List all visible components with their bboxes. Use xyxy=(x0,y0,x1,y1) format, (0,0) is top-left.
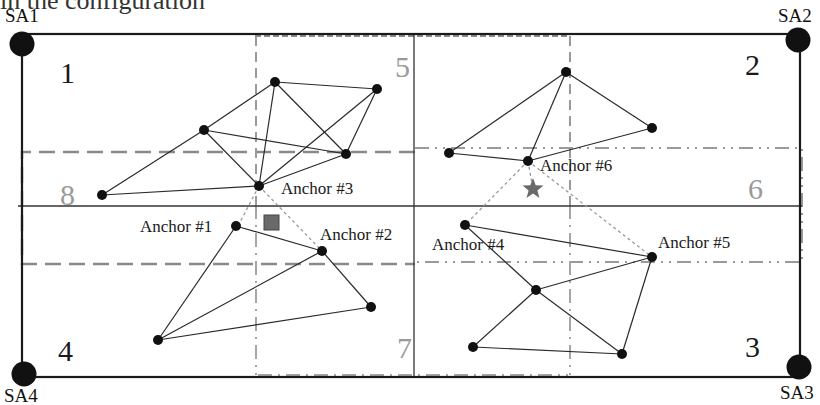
sensor-node xyxy=(468,342,478,352)
anchor-label: Anchor #4 xyxy=(432,236,504,253)
cluster-edge xyxy=(473,290,536,347)
target-star-icon xyxy=(523,178,544,198)
region-8-border xyxy=(22,152,415,264)
anchor-label: Anchor #2 xyxy=(320,226,392,243)
anchor-label: Anchor #3 xyxy=(281,180,353,197)
cluster-edge xyxy=(566,72,652,128)
sensor-node xyxy=(647,252,657,262)
sensor-node xyxy=(523,156,533,166)
cluster-edge xyxy=(158,226,236,340)
sensor-node xyxy=(444,148,454,158)
cluster-edge xyxy=(473,347,622,354)
cluster-edge xyxy=(158,307,371,340)
cluster-edge xyxy=(102,186,259,195)
sensor-node xyxy=(372,84,382,94)
cluster-edge xyxy=(259,89,377,186)
sensor-node xyxy=(617,349,627,359)
region-number-8: 8 xyxy=(60,180,75,210)
sensor-node xyxy=(341,149,351,159)
cluster-edge xyxy=(204,82,275,130)
cluster-edge xyxy=(536,290,622,354)
sensor-node xyxy=(317,246,327,256)
sensor-anchor-label: SA4 xyxy=(4,386,38,405)
dotted-link xyxy=(465,161,528,225)
sensor-anchor-sa3 xyxy=(787,355,812,380)
anchor-label: Anchor #1 xyxy=(140,218,212,235)
sensor-anchor-label: SA1 xyxy=(5,6,39,25)
sensor-node xyxy=(153,335,163,345)
sensor-node xyxy=(561,67,571,77)
sensor-anchor-sa2 xyxy=(786,28,811,53)
cluster-edge xyxy=(102,130,204,195)
anchor-label: Anchor #5 xyxy=(658,234,730,251)
sensor-node xyxy=(254,181,264,191)
sensor-node xyxy=(647,123,657,133)
region-number-2: 2 xyxy=(745,50,760,80)
cluster-edge xyxy=(322,251,371,307)
sensor-node xyxy=(531,285,541,295)
sensor-node xyxy=(199,125,209,135)
sensor-anchor-label: SA3 xyxy=(780,383,814,402)
cluster-edge xyxy=(622,257,652,354)
cluster-edge xyxy=(275,82,377,89)
region-number-6: 6 xyxy=(748,174,763,204)
cluster-edge xyxy=(204,130,346,154)
sensor-node xyxy=(97,190,107,200)
estimate-square-icon xyxy=(264,215,279,230)
sensor-node xyxy=(366,302,376,312)
region-number-5: 5 xyxy=(395,52,410,82)
sensor-node xyxy=(460,220,470,230)
sensor-node xyxy=(231,221,241,231)
sensor-anchor-sa1 xyxy=(10,32,35,57)
region-number-4: 4 xyxy=(58,336,73,366)
cluster-edge xyxy=(449,153,528,161)
region-number-1: 1 xyxy=(60,58,75,88)
quadrant-dividers xyxy=(18,33,802,378)
cluster-edge xyxy=(259,82,275,186)
dotted-link xyxy=(528,161,652,257)
anchor-label: Anchor #6 xyxy=(540,157,612,174)
cluster-nodes xyxy=(97,67,657,359)
sensor-anchor-label: SA2 xyxy=(778,6,812,25)
sensor-node xyxy=(270,77,280,87)
localization-diagram: in the configuration xyxy=(0,0,820,405)
sensor-anchor-sa4 xyxy=(12,362,37,387)
region-number-7: 7 xyxy=(397,333,412,363)
region-number-3: 3 xyxy=(745,332,760,362)
cluster-edge xyxy=(346,89,377,154)
